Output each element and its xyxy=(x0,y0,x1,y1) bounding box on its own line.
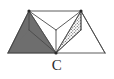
figure-container: C xyxy=(0,0,114,79)
vertex-top-left xyxy=(27,9,30,12)
vertex-bottom-center xyxy=(54,51,57,54)
edge-right-corner-to-apex xyxy=(81,11,105,53)
figure-label: C xyxy=(0,57,114,74)
vertex-top-right xyxy=(79,9,82,12)
